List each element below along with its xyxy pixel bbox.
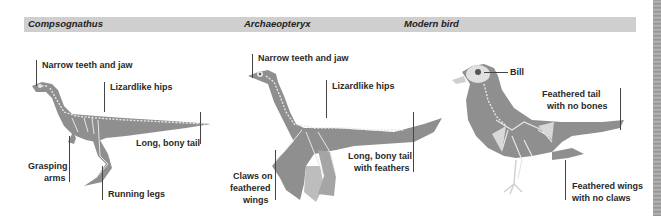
label-feathered-tail-1: Feathered tail <box>542 88 601 100</box>
label-running-legs: Running legs <box>108 188 165 200</box>
label-long-bony-tail-2: with feathers <box>354 162 410 174</box>
leader-line <box>36 60 37 86</box>
leader-line <box>252 54 253 78</box>
page-edge-strip <box>653 0 661 216</box>
header-bar: Compsognathus Archaeopteryx Modern bird <box>24 17 636 32</box>
leader-line <box>620 88 621 130</box>
leader-line <box>413 112 414 172</box>
label-lizardlike-hips: Lizardlike hips <box>110 81 173 93</box>
label-long-bony-tail: Long, bony tail <box>136 137 200 149</box>
label-bill: Bill <box>510 66 524 78</box>
label-claws-feathered-wings-1: Claws on <box>233 170 273 182</box>
label-feathered-wings-1: Feathered wings <box>572 180 643 192</box>
leader-line <box>102 166 103 200</box>
label-claws-feathered-wings-2: feathered <box>230 182 271 194</box>
label-narrow-teeth-jaw: Narrow teeth and jaw <box>258 52 349 64</box>
label-grasping-arms-1: Grasping <box>28 160 68 172</box>
label-claws-feathered-wings-3: wings <box>243 194 269 206</box>
label-feathered-tail-2: with no bones <box>547 100 608 112</box>
label-grasping-arms-2: arms <box>44 172 66 184</box>
leader-line <box>200 112 201 144</box>
leader-line <box>565 160 566 200</box>
column-title-modern-bird: Modern bird <box>404 18 459 29</box>
column-title-compsognathus: Compsognathus <box>28 18 103 29</box>
leader-line <box>326 80 327 118</box>
leader-line <box>484 72 508 73</box>
modern-bird-illustration <box>452 60 624 200</box>
leader-line <box>104 82 105 112</box>
leader-line <box>69 136 70 182</box>
label-feathered-wings-2: with no claws <box>572 192 631 204</box>
column-title-archaeopteryx: Archaeopteryx <box>244 18 311 29</box>
leader-line <box>275 150 276 200</box>
label-lizardlike-hips: Lizardlike hips <box>332 80 395 92</box>
label-long-bony-tail-1: Long, bony tail <box>348 150 412 162</box>
label-narrow-teeth-jaw: Narrow teeth and jaw <box>42 59 133 71</box>
